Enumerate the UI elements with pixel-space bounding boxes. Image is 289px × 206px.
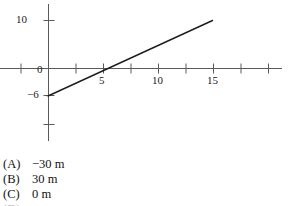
answer-option-a-text: −30 m (32, 157, 64, 172)
plotted-line (48, 21, 213, 97)
graph-figure: 10 0 −6 5 10 15 (0, 0, 289, 150)
y-tick-label-neg6: −6 (27, 89, 39, 100)
x-tick-label-10: 10 (152, 75, 163, 86)
answer-option-c[interactable]: (C) 0 m (3, 187, 203, 202)
answer-option-d[interactable]: (D) (3, 202, 203, 206)
answer-option-b-text: 30 m (32, 172, 57, 187)
answer-option-b-tag: (B) (3, 172, 32, 187)
page-root: 10 0 −6 5 10 15 (A) −30 m (B) 30 m (C) 0… (0, 0, 289, 206)
graph-svg (0, 0, 289, 150)
x-tick-label-5: 5 (99, 75, 105, 86)
y-tick-label-10: 10 (16, 14, 27, 25)
answer-option-a-tag: (A) (3, 157, 32, 172)
answer-options-list: (A) −30 m (B) 30 m (C) 0 m (D) (3, 157, 203, 206)
x-tick-label-15: 15 (207, 75, 218, 86)
origin-label: 0 (37, 64, 43, 75)
answer-option-c-tag: (C) (3, 187, 32, 202)
answer-option-c-text: 0 m (32, 187, 51, 202)
answer-option-b[interactable]: (B) 30 m (3, 172, 203, 187)
answer-option-a[interactable]: (A) −30 m (3, 157, 203, 172)
answer-option-d-tag: (D) (3, 202, 32, 206)
